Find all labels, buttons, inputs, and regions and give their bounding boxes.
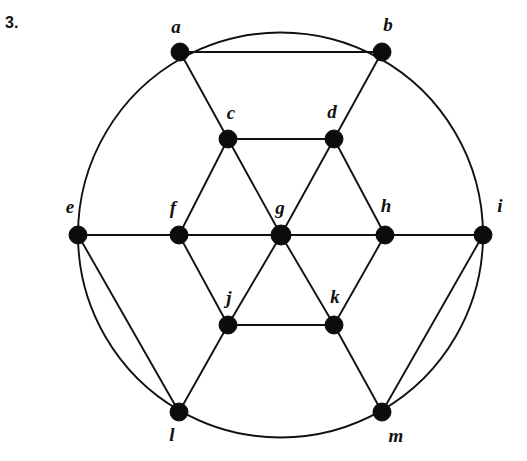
graph-edge-j-l [179, 325, 228, 412]
graph-node-d[interactable] [325, 130, 343, 148]
graph-arc-edge-m-l [180, 411, 381, 438]
graph-node-label-d: d [327, 101, 337, 122]
graph-node-label-l: l [169, 424, 175, 445]
graph-node-c[interactable] [219, 130, 237, 148]
graph-edge-d-h [334, 139, 385, 235]
graph-edge-a-c [180, 52, 228, 139]
graph-edge-e-l [78, 235, 179, 412]
figure-root: 3. abcdefghijklm [0, 0, 527, 461]
graph-node-label-b: b [383, 14, 393, 35]
graph-node-g[interactable] [271, 225, 291, 245]
graph-node-l[interactable] [170, 403, 188, 421]
graph-node-f[interactable] [170, 226, 188, 244]
graph-edge-i-m [382, 235, 483, 412]
graph-arc-edge-a-b [183, 32, 379, 57]
graph-node-label-m: m [389, 425, 404, 446]
graph-node-label-c: c [227, 102, 236, 123]
graph-edge-c-f [179, 139, 228, 235]
graph-node-label-i: i [497, 195, 503, 216]
graph-node-j[interactable] [219, 316, 237, 334]
graph-node-k[interactable] [325, 316, 343, 334]
graph-node-a[interactable] [171, 43, 189, 61]
graph-node-i[interactable] [474, 226, 492, 244]
graph-node-label-j: j [223, 287, 232, 308]
graph-node-e[interactable] [69, 226, 87, 244]
graph-node-label-f: f [170, 197, 178, 218]
graph-node-label-k: k [330, 286, 340, 307]
graph-canvas: abcdefghijklm [0, 0, 527, 461]
graph-edge-f-j [179, 235, 228, 325]
graph-edge-h-k [334, 235, 385, 325]
graph-node-b[interactable] [373, 43, 391, 61]
graph-arc-edge-e-a [78, 58, 183, 236]
graph-node-h[interactable] [376, 226, 394, 244]
graph-edge-c-g [228, 139, 281, 235]
graph-node-label-e: e [66, 196, 75, 217]
graph-node-m[interactable] [373, 403, 391, 421]
graph-edge-g-j [228, 235, 281, 325]
graph-edge-k-m [334, 325, 382, 412]
graph-node-label-h: h [381, 195, 392, 216]
graph-node-label-g: g [274, 197, 285, 218]
graph-edge-d-g [281, 139, 334, 235]
graph-edge-b-d [334, 52, 382, 139]
graph-arc-edge-b-i [379, 58, 483, 235]
graph-node-label-a: a [171, 16, 181, 37]
graph-edge-g-k [281, 235, 334, 325]
node-layer [69, 43, 492, 421]
